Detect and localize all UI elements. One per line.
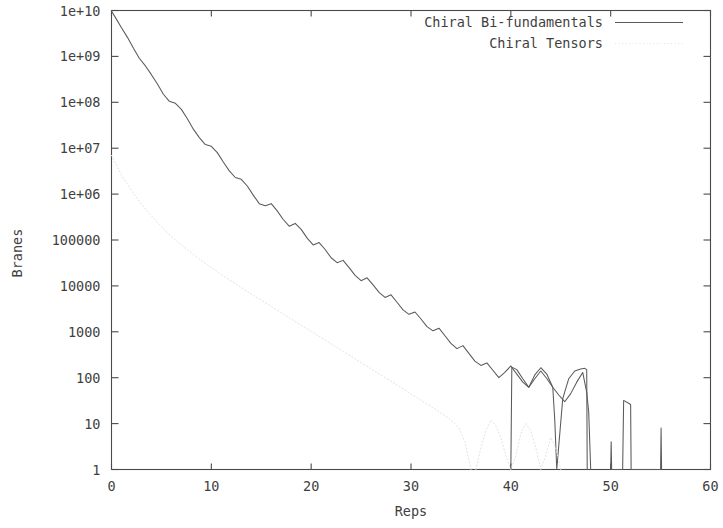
y-tick-label: 1000 <box>68 324 101 340</box>
y-tick-label: 10000 <box>60 278 101 294</box>
y-tick-label: 1e+06 <box>60 186 101 202</box>
chart-figure: 0102030405060 1101001000100001000001e+06… <box>0 0 723 528</box>
x-tick-label: 0 <box>107 478 115 494</box>
y-tick-label: 1 <box>92 462 100 478</box>
y-tick-label: 1e+08 <box>60 94 101 110</box>
x-tick-label: 30 <box>403 478 419 494</box>
y-tick-label: 1e+09 <box>60 48 101 64</box>
chart-canvas: 0102030405060 1101001000100001000001e+06… <box>0 0 723 528</box>
y-tick-label: 100000 <box>52 232 101 248</box>
x-axis-title: Reps <box>395 503 428 519</box>
y-tick-label: 100 <box>76 370 100 386</box>
y-tick-label: 1e+10 <box>60 3 101 19</box>
figure-background <box>0 0 723 528</box>
x-tick-label: 10 <box>203 478 219 494</box>
legend-label-chiral-tensors: Chiral Tensors <box>489 35 603 51</box>
y-tick-label: 10 <box>84 416 100 432</box>
y-axis-title: Branes <box>9 229 25 278</box>
x-tick-label: 60 <box>702 478 718 494</box>
x-tick-label: 20 <box>303 478 319 494</box>
x-tick-label: 50 <box>603 478 619 494</box>
y-tick-label: 1e+07 <box>60 140 101 156</box>
x-tick-label: 40 <box>503 478 519 494</box>
legend-label-chiral-bi-fundamentals: Chiral Bi-fundamentals <box>424 14 603 30</box>
